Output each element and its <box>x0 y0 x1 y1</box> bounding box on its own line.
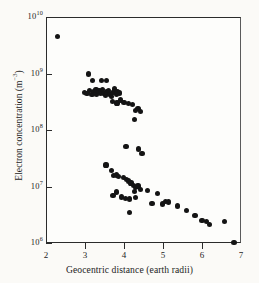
plot-area <box>46 17 241 243</box>
data-point <box>149 201 154 206</box>
y-tick-7 <box>46 187 52 188</box>
y-tick-label-8: 108 <box>31 124 43 134</box>
x-tick-5 <box>163 243 164 249</box>
x-tick-label-5: 5 <box>153 250 173 260</box>
data-point <box>86 71 91 76</box>
y-tick-label-7: 107 <box>31 181 43 191</box>
x-tick-label-6: 6 <box>192 250 212 260</box>
data-point <box>132 189 137 194</box>
data-point <box>114 189 119 194</box>
x-tick-4 <box>124 243 125 249</box>
x-tick-label-3: 3 <box>75 250 95 260</box>
y-axis-title: Electron concentration (m−3) <box>13 26 24 226</box>
data-point <box>127 196 132 201</box>
x-axis-title: Geocentric distance (earth radii) <box>0 264 259 275</box>
scatter-chart-figure: 1061071081091010 234567 Geocentric dista… <box>0 0 259 283</box>
data-point <box>139 151 144 156</box>
y-tick-8 <box>46 130 52 131</box>
data-point <box>166 199 171 204</box>
data-point <box>117 90 122 95</box>
x-tick-6 <box>202 243 203 249</box>
y-tick-10 <box>46 17 52 18</box>
x-tick-label-2: 2 <box>36 250 56 260</box>
data-point <box>145 188 150 193</box>
y-axis-title-text: Electron concentration (m−3) <box>13 70 24 180</box>
y-tick-label-9: 109 <box>31 68 43 78</box>
x-tick-3 <box>85 243 86 249</box>
data-point <box>192 213 197 218</box>
y-tick-label-6: 106 <box>31 237 43 247</box>
data-point <box>123 144 128 149</box>
y-tick-6 <box>46 243 52 244</box>
x-tick-label-7: 7 <box>231 250 251 260</box>
data-point <box>132 117 137 122</box>
data-point <box>127 210 132 215</box>
y-tick-label-10: 1010 <box>28 11 44 21</box>
data-point <box>231 240 236 245</box>
y-tick-9 <box>46 74 52 75</box>
data-point <box>103 162 108 167</box>
x-tick-label-4: 4 <box>114 250 134 260</box>
